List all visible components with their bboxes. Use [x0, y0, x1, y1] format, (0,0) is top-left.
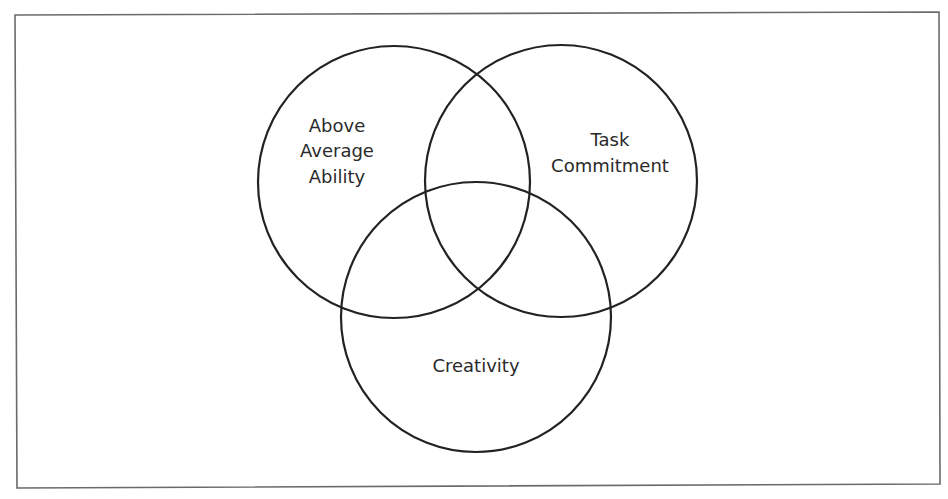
label-creativity: Creativity: [432, 355, 519, 376]
label-line: Ability: [309, 166, 366, 187]
label-task-commitment: Task Commitment: [551, 129, 669, 176]
label-line: Commitment: [551, 155, 669, 176]
circle-task-commitment: [425, 45, 697, 317]
diagram-frame: [15, 12, 940, 488]
label-line: Average: [300, 140, 374, 161]
label-line: Task: [590, 129, 630, 150]
label-line: Above: [309, 115, 365, 136]
label-above-average-ability: Above Average Ability: [300, 115, 374, 187]
venn-diagram: Above Average Ability Task Commitment Cr…: [0, 0, 948, 499]
label-line: Creativity: [432, 355, 519, 376]
